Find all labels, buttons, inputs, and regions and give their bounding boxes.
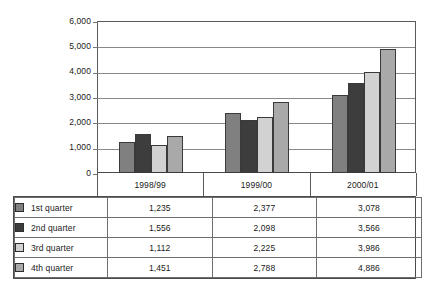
bar-chart-plot: 6,0005,0004,0003,0002,0001,0000 1998/991…: [0, 0, 431, 196]
bar: [167, 136, 183, 173]
table-row: 4th quarter1,4512,7884,886: [15, 258, 422, 278]
y-axis-tick-label: 3,000: [45, 93, 91, 102]
legend-cell: 2nd quarter: [15, 218, 108, 238]
table-value-cell: 2,225: [212, 238, 317, 258]
bar-group: [204, 22, 310, 173]
data-table: 1st quarter1,2352,3773,0782nd quarter1,5…: [13, 196, 416, 279]
legend-swatch-icon: [15, 263, 24, 272]
x-axis-category-label: 2000/01: [310, 173, 416, 196]
table-value-cell: 2,098: [212, 218, 317, 238]
x-axis-category-separator: [310, 173, 311, 196]
legend-label: 1st quarter: [31, 203, 73, 213]
bar: [364, 72, 380, 173]
legend-label: 4th quarter: [31, 263, 73, 273]
table-value-cell: 2,788: [212, 258, 317, 278]
bar-group: [311, 22, 417, 173]
bar: [225, 113, 241, 173]
table-value-cell: 1,556: [108, 218, 213, 238]
table-row: 3rd quarter1,1122,2253,986: [15, 238, 422, 258]
y-axis-tick-label: 4,000: [45, 67, 91, 76]
bar-group: [98, 22, 204, 173]
table-row: 2nd quarter1,5562,0983,566: [15, 218, 422, 238]
legend-swatch-icon: [15, 203, 24, 212]
x-axis-category-label: 1998/99: [97, 173, 203, 196]
data-table-body: 1st quarter1,2352,3773,0782nd quarter1,5…: [15, 198, 422, 278]
x-axis-category-separator: [203, 173, 204, 196]
bar: [257, 117, 273, 173]
legend-entry: 4th quarter: [15, 263, 107, 273]
legend-cell: 4th quarter: [15, 258, 108, 278]
y-axis-tick-label: 0: [45, 169, 91, 178]
x-axis-category-label: 1999/00: [203, 173, 309, 196]
table-row: 1st quarter1,2352,3773,078: [15, 198, 422, 218]
table-value-cell: 3,078: [317, 198, 422, 218]
data-table-grid: 1st quarter1,2352,3773,0782nd quarter1,5…: [14, 197, 422, 278]
x-axis-category-labels: 1998/991999/002000/01: [97, 173, 416, 196]
bar: [332, 95, 348, 173]
y-axis-tick-label: 5,000: [45, 42, 91, 51]
plot-frame: [97, 21, 416, 173]
table-value-cell: 2,377: [212, 198, 317, 218]
x-axis-category-separator: [97, 173, 98, 196]
table-value-cell: 4,886: [317, 258, 422, 278]
bar: [151, 145, 167, 173]
legend-swatch-icon: [15, 243, 24, 252]
y-axis-tick-label: 1,000: [45, 143, 91, 152]
bar: [348, 83, 364, 173]
bar: [119, 142, 135, 173]
legend-entry: 2nd quarter: [15, 223, 107, 233]
bar: [380, 49, 396, 173]
legend-label: 2nd quarter: [31, 223, 76, 233]
bar-series-container: [98, 22, 415, 173]
table-value-cell: 3,986: [317, 238, 422, 258]
bar: [135, 134, 151, 173]
table-value-cell: 1,451: [108, 258, 213, 278]
bar: [241, 120, 257, 173]
table-value-cell: 3,566: [317, 218, 422, 238]
y-axis-tick-label: 2,000: [45, 118, 91, 127]
legend-entry: 1st quarter: [15, 203, 107, 213]
legend-cell: 1st quarter: [15, 198, 108, 218]
legend-swatch-icon: [15, 223, 24, 232]
x-axis-category-separator: [416, 173, 417, 196]
chart-page: 6,0005,0004,0003,0002,0001,0000 1998/991…: [0, 0, 431, 285]
bar: [273, 102, 289, 173]
y-axis-tick-labels: 6,0005,0004,0003,0002,0001,0000: [44, 0, 91, 196]
legend-cell: 3rd quarter: [15, 238, 108, 258]
y-axis-tick-label: 6,000: [45, 17, 91, 26]
table-value-cell: 1,235: [108, 198, 213, 218]
legend-entry: 3rd quarter: [15, 243, 107, 253]
table-value-cell: 1,112: [108, 238, 213, 258]
legend-label: 3rd quarter: [31, 243, 74, 253]
